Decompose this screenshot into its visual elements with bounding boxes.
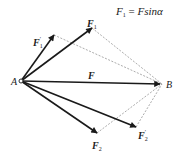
label-f: F <box>87 70 95 81</box>
point-a-marker <box>19 79 23 83</box>
label-f1prime: F1′ <box>32 36 43 49</box>
vector-f <box>21 81 160 84</box>
dashed-line-f1-b <box>92 28 162 84</box>
force-decomposition-diagram: F1 = Fsinα A B F1′ F1 F F2 F2′ <box>0 0 180 160</box>
dashed-line-f2prime-b <box>136 84 162 127</box>
label-f2: F2 <box>91 140 102 152</box>
vector-f1 <box>21 28 92 81</box>
dashed-line-f2-b <box>97 84 162 133</box>
label-point-a: A <box>10 76 18 87</box>
label-f1: F1 <box>86 18 97 30</box>
label-point-b: B <box>166 79 172 90</box>
dashed-line-f1prime-b <box>54 35 162 84</box>
label-f2prime: F2′ <box>137 129 148 142</box>
equation: F1 = Fsinα <box>115 5 163 18</box>
